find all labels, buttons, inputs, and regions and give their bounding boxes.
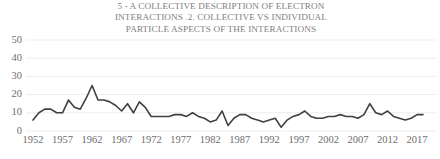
x-axis-tick-label: 1977 bbox=[170, 134, 191, 145]
x-axis-tick-label: 1957 bbox=[52, 134, 73, 145]
x-axis-tick-label: 2017 bbox=[407, 134, 428, 145]
line-chart: 5 - A COLLECTIVE DESCRIPTION OF ELECTRON… bbox=[0, 0, 440, 159]
x-axis-tick-label: 1967 bbox=[111, 134, 132, 145]
x-axis-tick-label: 2012 bbox=[377, 134, 398, 145]
x-axis-tick-label: 1992 bbox=[259, 134, 280, 145]
x-axis-tick-label: 1962 bbox=[82, 134, 103, 145]
x-axis-tick-label: 1982 bbox=[200, 134, 221, 145]
x-axis-tick-label: 2007 bbox=[348, 134, 369, 145]
x-axis-tick-label: 2002 bbox=[318, 134, 339, 145]
x-axis: 1952195719621967197219771982198719921997… bbox=[0, 30, 440, 159]
x-axis-tick-label: 1952 bbox=[23, 134, 44, 145]
x-axis-tick-label: 1987 bbox=[229, 134, 250, 145]
x-axis-tick-label: 1972 bbox=[141, 134, 162, 145]
plot-wrapper: 01020304050 1952195719621967197219771982… bbox=[0, 30, 440, 159]
x-axis-tick-label: 1997 bbox=[288, 134, 309, 145]
